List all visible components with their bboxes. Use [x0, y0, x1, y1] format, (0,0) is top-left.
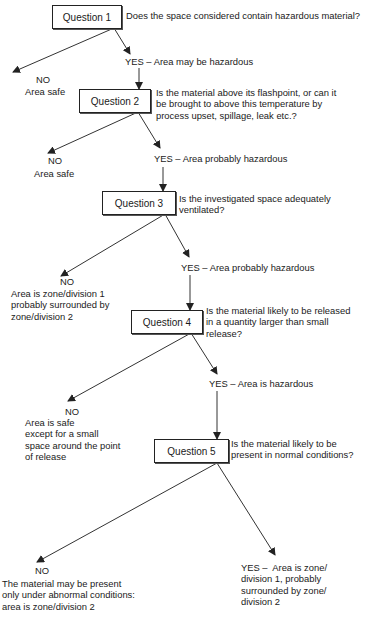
question-3-label: Question 3 [115, 198, 163, 209]
arrow-q3-no [61, 214, 165, 276]
question-1-text: Does the space considered contain hazard… [126, 10, 360, 21]
question-2-box: Question 2 [79, 89, 151, 113]
q2-yes-outcome: YES – Area probably hazardous [154, 153, 287, 164]
question-2-text: Is the material above its flashpoint, or… [156, 87, 336, 121]
question-4-text: Is the material likely to be released in… [206, 305, 350, 339]
arrow-q4-no [68, 333, 191, 401]
arrow-q5-no [37, 463, 217, 562]
question-3-text: Is the investigated space adequately ven… [179, 193, 331, 216]
question-4-box: Question 4 [131, 310, 203, 334]
question-1-label: Question 1 [63, 12, 111, 23]
question-1-box: Question 1 [52, 5, 122, 29]
question-2-label: Question 2 [91, 96, 139, 107]
question-5-box: Question 5 [154, 439, 229, 463]
q4-yes-outcome: YES – Area is hazardous [209, 378, 313, 389]
q1-yes-outcome: YES – Area may be hazardous [125, 56, 253, 67]
q3-no-head: NO [52, 276, 82, 287]
q2-no-head: NO [40, 155, 70, 166]
q1-no-body: Area safe [25, 86, 65, 97]
question-5-text: Is the material likely to be present in … [231, 438, 353, 461]
arrow-q3-yes [165, 214, 189, 257]
question-4-label: Question 4 [143, 317, 191, 328]
q4-no-head: NO [57, 406, 87, 417]
q3-yes-outcome: YES – Area probably hazardous [181, 262, 314, 273]
q5-yes-outcome: YES – Area is zone/ division 1, probably… [241, 562, 327, 608]
q1-no-head: NO [28, 74, 58, 85]
arrow-q2-no [48, 112, 138, 153]
q5-no-head: NO [27, 565, 57, 576]
arrow-q1-yes [114, 28, 130, 54]
question-3-box: Question 3 [102, 191, 176, 215]
q5-no-body: The material may be present only under a… [2, 578, 135, 612]
arrow-q5-yes [217, 463, 275, 555]
arrow-q1-no [13, 28, 114, 72]
q3-no-body: Area is zone/division 1 probably surroun… [11, 288, 110, 322]
q2-no-body: Area safe [34, 168, 74, 179]
question-5-label: Question 5 [167, 446, 215, 457]
q4-no-body: Area is safe except for a small space ar… [25, 417, 120, 463]
